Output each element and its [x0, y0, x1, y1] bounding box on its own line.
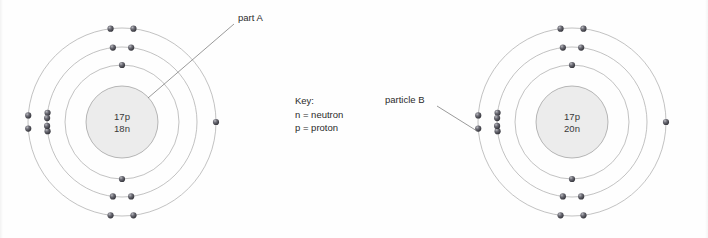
electron	[580, 212, 586, 218]
callout-label: part A	[238, 12, 263, 23]
electron	[557, 212, 563, 218]
electron	[494, 123, 500, 129]
electron	[578, 44, 584, 50]
callout-leader-line	[148, 24, 234, 98]
electron	[128, 193, 134, 199]
electron	[580, 26, 586, 32]
electron	[25, 112, 31, 118]
key-title: Key:	[295, 95, 314, 106]
callout-leader-line	[437, 106, 477, 131]
nucleus	[536, 86, 608, 158]
key-entry-neutron: n = neutron	[295, 109, 343, 120]
electron	[119, 176, 125, 182]
electron	[44, 115, 50, 121]
electron	[25, 125, 31, 131]
electron	[130, 26, 136, 32]
nucleus-neutron-label: 20n	[564, 123, 580, 134]
left-atom: 17p18n	[25, 26, 219, 219]
electron	[213, 119, 219, 125]
electron	[663, 119, 669, 125]
electron	[128, 44, 134, 50]
electron	[110, 193, 116, 199]
electron	[475, 112, 481, 118]
electron	[569, 176, 575, 182]
electron	[560, 44, 566, 50]
electron	[578, 193, 584, 199]
nucleus-proton-label: 17p	[114, 111, 130, 122]
nucleus-neutron-label: 18n	[114, 123, 130, 134]
callout-label: particle B	[385, 94, 425, 105]
right-atom: 17p20n	[475, 26, 669, 219]
electron	[107, 212, 113, 218]
electron	[494, 115, 500, 121]
atomic-structure-illustration: 17p18n17p20n part Aparticle BKey:n = neu…	[0, 0, 708, 238]
electron	[44, 123, 50, 129]
nucleus	[86, 86, 158, 158]
diagram-canvas: 17p18n17p20n part Aparticle BKey:n = neu…	[0, 0, 708, 238]
nucleus-proton-label: 17p	[564, 111, 580, 122]
electron	[107, 26, 113, 32]
electron	[569, 62, 575, 68]
electron	[119, 62, 125, 68]
electron	[110, 44, 116, 50]
electron	[130, 212, 136, 218]
electron	[557, 26, 563, 32]
electron	[560, 193, 566, 199]
key-entry-proton: p = proton	[295, 122, 338, 133]
